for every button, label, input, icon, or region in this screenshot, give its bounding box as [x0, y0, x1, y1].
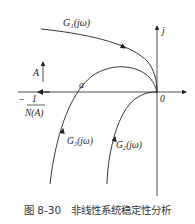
g3-label: G₃(jω)	[67, 136, 93, 147]
g3-direction-arrow	[62, 129, 63, 134]
amplitude-label: A	[32, 67, 40, 78]
g1-label: G₁(jω)	[63, 17, 91, 29]
point-a-label: a	[79, 79, 84, 90]
origin-label: 0	[160, 94, 165, 104]
fraction-numerator: 1	[32, 94, 37, 104]
g2-label: G₂(jω)	[116, 140, 142, 151]
imaginary-axis-label: j	[160, 25, 165, 36]
g3-curve	[50, 67, 157, 184]
nyquist-diagram: G₁(jω) G₂(jω) G₃(jω) j 0 a A − 1 N(A)	[0, 0, 195, 224]
g1-curve	[41, 29, 157, 92]
fraction-denominator: N(A)	[24, 108, 43, 119]
neg-sign: −	[18, 94, 25, 105]
figure-caption: 图 8-30 非线性系统稳定性分析	[0, 202, 195, 217]
